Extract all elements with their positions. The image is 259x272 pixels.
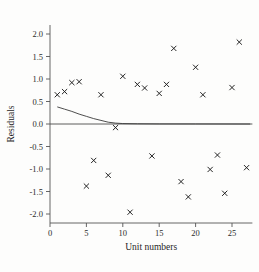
x-tick-label: 0	[48, 228, 52, 238]
y-tick-label: 0.5	[32, 97, 43, 107]
data-point-marker	[164, 82, 169, 87]
data-point-marker	[77, 79, 82, 84]
y-tick-label: 2.0	[32, 29, 43, 39]
y-tick-label: -1.0	[30, 164, 43, 174]
data-point-marker	[98, 92, 103, 97]
data-point-marker	[171, 46, 176, 51]
x-tick-label: 20	[191, 228, 200, 238]
data-point-marker	[157, 91, 162, 96]
data-point-marker	[120, 74, 125, 79]
data-point-marker	[142, 85, 147, 90]
data-point-marker	[62, 89, 67, 94]
data-point-marker	[200, 92, 205, 97]
data-point-marker	[135, 82, 140, 87]
data-point-marker	[244, 165, 249, 170]
residuals-scatter-chart: 05101520252.01.51.00.50.0-0.5-1.0-1.5-2.…	[0, 0, 259, 272]
data-point-marker	[113, 125, 118, 130]
data-point-marker	[193, 65, 198, 70]
x-tick-label: 10	[119, 228, 128, 238]
residual-plot: 05101520252.01.51.00.50.0-0.5-1.0-1.5-2.…	[0, 0, 259, 272]
data-point-marker	[55, 92, 60, 97]
data-point-marker	[215, 152, 220, 157]
data-point-marker	[106, 173, 111, 178]
data-point-marker	[149, 153, 154, 158]
y-tick-label: 0.0	[32, 119, 43, 129]
y-tick-label: 1.0	[32, 74, 43, 84]
data-point-marker	[127, 210, 132, 215]
data-point-marker	[208, 167, 213, 172]
fitted-decay-curve	[57, 107, 250, 124]
data-point-marker	[222, 191, 227, 196]
data-point-marker	[91, 158, 96, 163]
y-tick-label: -2.0	[30, 209, 43, 219]
y-tick-label: 1.5	[32, 52, 43, 62]
x-tick-label: 25	[228, 228, 237, 238]
data-point-marker	[229, 85, 234, 90]
x-axis-title: Unit numbers	[125, 242, 177, 252]
x-tick-label: 5	[84, 228, 88, 238]
data-point-marker	[186, 194, 191, 199]
y-axis-title: Residuals	[6, 105, 16, 142]
y-tick-label: -1.5	[30, 187, 43, 197]
y-tick-label: -0.5	[30, 142, 43, 152]
data-point-marker	[84, 184, 89, 189]
data-point-marker	[178, 179, 183, 184]
x-tick-label: 15	[155, 228, 164, 238]
data-point-marker	[237, 40, 242, 45]
data-point-marker	[69, 80, 74, 85]
